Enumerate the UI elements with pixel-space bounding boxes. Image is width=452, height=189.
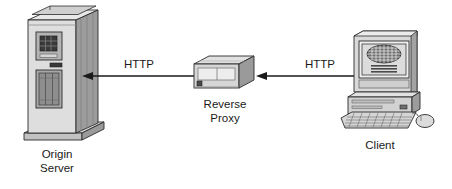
base-unit-drive-slot	[352, 100, 394, 103]
server-base-front	[24, 133, 82, 140]
mouse-icon	[416, 115, 434, 128]
network-diagram: Origin Server Reverse Proxy	[0, 0, 452, 189]
client-label: Client	[365, 139, 395, 151]
connection-label-proxy-to-origin: HTTP	[124, 58, 154, 70]
globe-grid	[367, 45, 401, 63]
base-unit-power-button	[400, 105, 407, 109]
base-unit-top	[348, 92, 420, 97]
server-bay-window	[40, 36, 57, 51]
screen-text-lines	[371, 65, 397, 73]
monitor-lower-strip	[359, 80, 409, 88]
server-bay-slot	[40, 54, 57, 58]
reverse-proxy-label-line1: Reverse	[204, 98, 247, 110]
connection-label-client-to-proxy: HTTP	[305, 58, 335, 70]
globe-icon	[367, 45, 401, 63]
client-label-line1: Client	[365, 139, 395, 151]
origin-server-label-line2: Server	[40, 162, 74, 174]
monitor-casing-top	[354, 31, 417, 36]
proxy-power-led	[197, 81, 202, 86]
origin-server-label-line1: Origin	[42, 148, 73, 160]
proxy-front-panel	[198, 68, 235, 80]
reverse-proxy-label-line2: Proxy	[210, 112, 240, 124]
base-unit-floppy-slot	[352, 106, 382, 109]
monitor-casing-side	[411, 31, 417, 92]
server-indicator-strip	[50, 63, 62, 67]
rack-appliance-icon	[194, 56, 254, 88]
